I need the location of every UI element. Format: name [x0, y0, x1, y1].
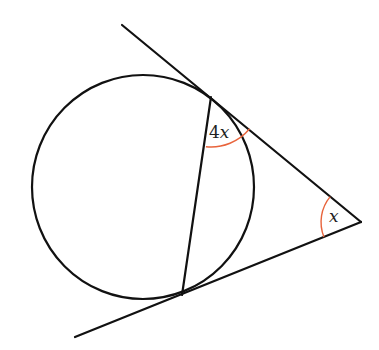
- angle-label-x: x: [329, 206, 339, 226]
- angle-label-4x-variable: x: [220, 122, 230, 142]
- geometry-diagram: 4x x: [0, 0, 379, 350]
- angle-label-4x: 4x: [209, 122, 230, 142]
- upper-tangent-line: [122, 25, 361, 222]
- chord: [182, 97, 211, 295]
- angle-label-4x-coefficient: 4: [209, 122, 220, 142]
- circle: [32, 75, 254, 299]
- lower-tangent-line: [75, 222, 361, 337]
